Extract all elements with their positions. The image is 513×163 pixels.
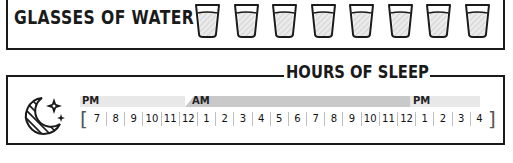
hour-cell[interactable]: 3 [452,112,470,126]
hour-cell[interactable]: 1 [415,112,433,126]
bracket-close: ] [488,109,496,129]
hour-cell[interactable]: 4 [252,112,270,126]
hour-cell[interactable]: 11 [161,112,179,126]
hour-cell[interactable]: 8 [324,112,342,126]
sleep-hours-timeline: [ 7 8 9 10 11 12 1 2 3 4 5 6 7 8 9 10 11… [80,108,496,130]
hour-cell[interactable]: 6 [288,112,306,126]
hour-cell[interactable]: 3 [233,112,251,126]
am-label: AM [192,95,210,106]
hour-cell[interactable]: 9 [342,112,360,126]
water-glass-icon[interactable] [233,3,260,39]
hour-cell[interactable]: 12 [397,112,415,126]
water-tracker-title: GLASSES OF WATER [14,6,194,28]
water-glass-icon[interactable] [310,3,337,39]
hour-cell[interactable]: 5 [270,112,288,126]
water-glass-icon[interactable] [194,3,221,39]
divider [6,75,284,77]
pm-label-start: PM [82,95,99,106]
divider [430,75,505,77]
water-glasses-row [194,3,491,39]
hour-cell[interactable]: 9 [124,112,142,126]
hour-cell[interactable]: 2 [215,112,233,126]
hour-cell[interactable]: 4 [470,112,488,126]
hour-cell[interactable]: 7 [306,112,324,126]
hour-cell[interactable]: 7 [88,112,106,126]
water-glass-icon[interactable] [348,3,375,39]
pm-label-end: PM [413,95,430,106]
hour-cell[interactable]: 8 [106,112,124,126]
night-sleep-band [185,96,410,107]
hour-cell[interactable]: 11 [379,112,397,126]
water-glass-icon[interactable] [271,3,298,39]
hour-cell[interactable]: 2 [433,112,451,126]
moon-stars-icon [20,92,66,138]
sleep-tracker-title: HOURS OF SLEEP [286,61,429,82]
hour-cell[interactable]: 1 [197,112,215,126]
hour-cell[interactable]: 10 [361,112,379,126]
hour-cell[interactable]: 10 [142,112,160,126]
water-glass-icon[interactable] [464,3,491,39]
water-glass-icon[interactable] [425,3,452,39]
bracket-open: [ [80,109,88,129]
water-glass-icon[interactable] [387,3,414,39]
hour-cell[interactable]: 12 [179,112,197,126]
